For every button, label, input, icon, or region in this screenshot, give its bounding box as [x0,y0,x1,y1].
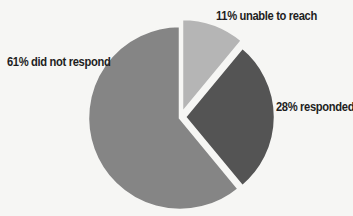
label-responded: 28% responded [276,100,353,114]
pie-chart: 11% unable to reach 28% responded 61% di… [0,0,353,216]
label-unable-to-reach: 11% unable to reach [216,9,317,23]
label-did-not-respond: 61% did not respond [7,55,110,69]
